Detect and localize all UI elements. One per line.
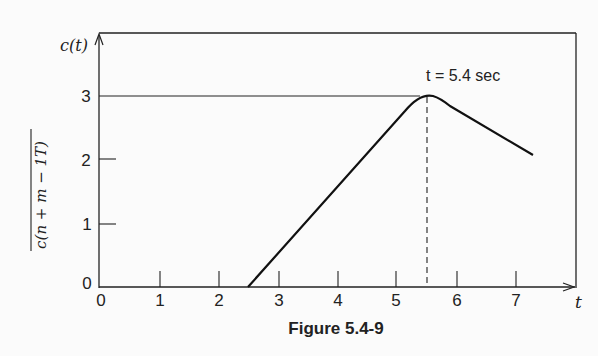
y-ticks bbox=[99, 159, 116, 224]
x-tick-5: 5 bbox=[391, 291, 400, 310]
chart-svg: 0 1 2 3 4 5 6 7 0 1 2 3 c(t) c(n + m − 1… bbox=[0, 0, 598, 356]
x-axis-label: t bbox=[575, 292, 582, 312]
y-tick-1: 1 bbox=[82, 215, 91, 234]
x-tick-labels: 0 1 2 3 4 5 6 7 bbox=[96, 291, 520, 310]
y-tick-labels: 0 1 2 3 bbox=[81, 87, 91, 293]
x-tick-6: 6 bbox=[452, 291, 461, 310]
peak-annotation: t = 5.4 sec bbox=[426, 67, 500, 84]
y-axis-label-rotated: c(n + m − 1T) bbox=[31, 129, 50, 251]
x-ticks bbox=[160, 271, 516, 287]
x-tick-3: 3 bbox=[274, 291, 283, 310]
figure-caption: Figure 5.4-9 bbox=[288, 319, 383, 338]
x-tick-0: 0 bbox=[96, 291, 105, 310]
y-tick-0: 0 bbox=[82, 274, 91, 293]
y-tick-3: 3 bbox=[81, 87, 90, 106]
x-tick-7: 7 bbox=[511, 291, 520, 310]
figure: 0 1 2 3 4 5 6 7 0 1 2 3 c(t) c(n + m − 1… bbox=[0, 0, 598, 356]
y-tick-2: 2 bbox=[81, 151, 90, 170]
y-axis-label: c(t) bbox=[60, 36, 88, 55]
x-tick-1: 1 bbox=[155, 291, 164, 310]
x-tick-4: 4 bbox=[333, 291, 342, 310]
response-curve bbox=[248, 96, 533, 287]
svg-text:c(n + m − 1T): c(n + m − 1T) bbox=[32, 141, 50, 249]
x-tick-2: 2 bbox=[214, 291, 223, 310]
